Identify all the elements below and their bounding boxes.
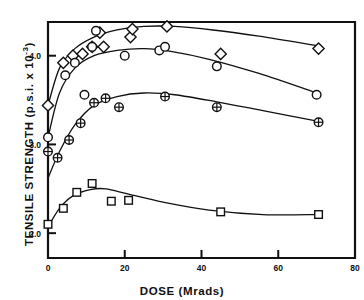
marker-diamond — [58, 57, 69, 68]
marker-diamond — [42, 100, 53, 111]
x-tick-label: 80 — [350, 263, 360, 273]
marker-circle — [61, 71, 70, 80]
marker-crossed-circle — [76, 119, 85, 128]
marker-circle — [312, 90, 321, 99]
marker-square — [315, 211, 323, 219]
marker-crossed-circle — [44, 147, 53, 156]
curve-crossed-circle-series — [48, 93, 319, 178]
marker-square — [60, 205, 68, 213]
marker-square — [73, 189, 81, 197]
y-axis-label-text: TENSILE STRENGTH (p.s.i. x 10 — [23, 55, 35, 246]
plot-area: 2.03.04.0020406080 — [0, 0, 364, 300]
curve-square-series — [48, 188, 319, 227]
marker-crossed-circle — [90, 98, 99, 107]
marker-circle — [161, 43, 170, 52]
marker-square — [44, 220, 52, 228]
x-tick-label: 0 — [46, 263, 51, 273]
marker-crossed-circle — [213, 103, 222, 112]
y-axis-label-tail: ) — [23, 42, 35, 46]
marker-circle — [80, 90, 89, 99]
marker-crossed-circle — [53, 153, 62, 162]
marker-square — [125, 197, 133, 205]
marker-crossed-circle — [115, 103, 124, 112]
marker-circle — [120, 51, 129, 60]
marker-circle — [44, 133, 53, 142]
fitted-curves — [48, 26, 319, 227]
x-axis-label-text: DOSE (Mrads) — [140, 285, 225, 297]
marker-crossed-circle — [314, 118, 323, 127]
marker-circle — [88, 43, 97, 52]
marker-circle — [213, 62, 222, 71]
y-axis-label: TENSILE STRENGTH (p.s.i. x 10-3) — [19, 24, 41, 264]
marker-square — [217, 208, 225, 216]
marker-square — [88, 180, 96, 188]
tensile-strength-dose-chart: 2.03.04.0020406080 TENSILE STRENGTH (p.s… — [0, 0, 364, 300]
marker-diamond — [215, 48, 226, 59]
marker-diamond — [77, 48, 88, 59]
x-tick-label: 40 — [197, 263, 207, 273]
y-axis-label-exponent: -3 — [21, 46, 30, 54]
tick-labels: 2.03.04.0020406080 — [29, 51, 360, 273]
marker-crossed-circle — [65, 136, 74, 145]
marker-circle — [92, 27, 101, 36]
marker-square — [108, 197, 116, 205]
x-tick-label: 20 — [120, 263, 130, 273]
x-axis-label: DOSE (Mrads) — [0, 281, 364, 299]
marker-circle — [71, 59, 80, 68]
marker-diamond — [98, 41, 109, 52]
data-markers — [42, 21, 324, 228]
marker-crossed-circle — [161, 92, 170, 101]
marker-crossed-circle — [101, 94, 110, 103]
x-tick-label: 60 — [274, 263, 284, 273]
